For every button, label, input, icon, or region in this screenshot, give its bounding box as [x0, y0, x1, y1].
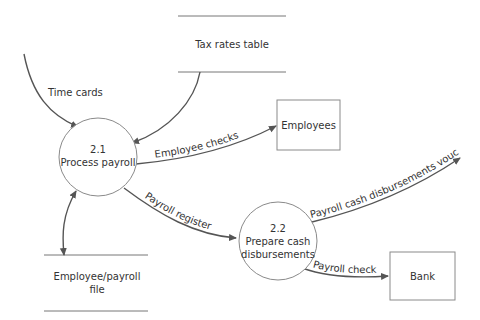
entity-label: Bank	[410, 271, 435, 282]
flow-label-employee-checks: Employee checks	[154, 129, 240, 159]
data-flow-diagram: Tax rates table Employee/payroll file Em…	[0, 0, 480, 320]
store-label-line2: file	[89, 284, 104, 295]
process-name-line1: Prepare cash	[246, 236, 311, 247]
process-2-1[interactable]: 2.1 Process payroll	[59, 118, 137, 196]
store-label: Tax rates table	[194, 39, 269, 50]
flow-tax-rates	[132, 72, 200, 143]
process-number: 2.2	[270, 223, 286, 234]
flow-employee-file	[63, 191, 76, 255]
entity-label: Employees	[281, 120, 336, 131]
flow-label-payroll-check: Payroll check	[312, 258, 377, 275]
process-2-2[interactable]: 2.2 Prepare cash disbursements	[239, 202, 317, 280]
data-store-tax-rates[interactable]: Tax rates table	[178, 16, 286, 72]
process-name: Process payroll	[60, 157, 135, 168]
data-store-employee-payroll-file[interactable]: Employee/payroll file	[44, 255, 148, 311]
entity-employees[interactable]: Employees	[277, 100, 340, 150]
flow-label-time-cards: Time cards	[47, 87, 103, 98]
flow-label-voucher: Payroll cash disbursements voucher	[0, 0, 460, 220]
entity-bank[interactable]: Bank	[390, 252, 455, 300]
flow-label-payroll-register: Payroll register	[143, 190, 213, 232]
process-number: 2.1	[90, 144, 106, 155]
process-name-line2: disbursements	[241, 249, 315, 260]
store-label-line1: Employee/payroll	[54, 271, 141, 282]
